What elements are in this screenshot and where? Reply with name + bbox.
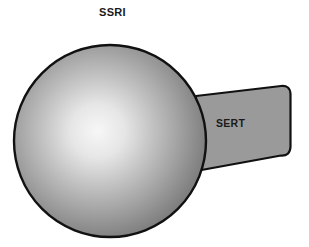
- ssri-label: SSRI: [0, 6, 225, 18]
- ssri-molecule-sphere: [14, 45, 206, 237]
- sert-label: SERT: [216, 117, 245, 129]
- figure-canvas: [0, 0, 309, 247]
